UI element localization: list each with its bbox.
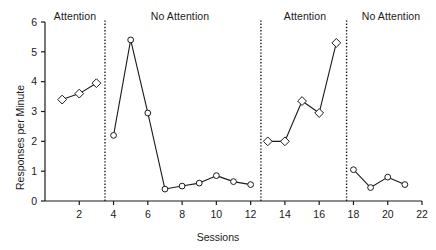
y-tick-label: 2 [31,135,37,147]
data-point-circle-marker [402,182,408,188]
y-axis-ticks: 0123456 [31,16,45,207]
y-tick-label: 0 [31,195,37,207]
data-point-circle-marker [111,132,117,138]
data-point-diamond-marker [58,95,67,104]
y-tick-label: 3 [31,105,37,117]
data-point-circle-marker [162,186,168,192]
x-tick-label: 16 [313,208,325,220]
chart-figure: 0123456246810121416182022 Attention No A… [0,0,436,250]
series-line [353,170,404,188]
series-line [114,40,251,189]
data-point-circle-marker [196,180,202,186]
data-point-circle-marker [128,37,134,43]
data-point-diamond-marker [298,97,307,106]
phase-label-no-attention-1: No Attention [130,10,230,22]
phase-dividers [105,20,347,201]
data-point-circle-marker [368,185,374,191]
phase-label-attention-1: Attention [40,10,110,22]
phase-label-no-attention-2: No Attention [348,10,434,22]
data-point-diamond-marker [92,79,101,88]
data-point-circle-marker [231,179,237,185]
x-tick-label: 2 [76,208,82,220]
data-point-circle-marker [385,174,391,180]
data-point-circle-marker [213,173,219,179]
x-tick-label: 12 [245,208,257,220]
y-tick-label: 4 [31,75,37,87]
data-point-diamond-marker [332,38,341,47]
data-point-circle-marker [248,182,254,188]
y-tick-label: 1 [31,165,37,177]
x-tick-label: 8 [179,208,185,220]
data-series [58,79,101,104]
phase-label-attention-2: Attention [270,10,340,22]
data-series [263,38,340,145]
x-tick-label: 4 [111,208,117,220]
x-tick-label: 22 [416,208,428,220]
x-tick-label: 20 [382,208,394,220]
x-axis-title: Sessions [0,231,436,243]
axes [45,22,422,201]
y-axis-title: Responses per Minute [14,85,26,190]
x-tick-label: 6 [145,208,151,220]
data-point-circle-marker [351,167,357,173]
data-point-diamond-marker [75,89,84,98]
data-series [351,167,408,191]
series-line [268,43,337,141]
y-tick-label: 5 [31,46,37,58]
x-tick-label: 18 [348,208,360,220]
x-tick-label: 14 [279,208,291,220]
data-series [111,37,254,192]
data-point-diamond-marker [281,137,290,146]
x-axis-ticks: 246810121416182022 [76,201,428,220]
x-tick-label: 10 [211,208,223,220]
data-point-circle-marker [145,110,151,116]
data-point-diamond-marker [315,109,324,118]
data-point-circle-marker [179,183,185,189]
y-tick-label: 6 [31,16,37,28]
line-chart: 0123456246810121416182022 [0,0,436,250]
data-point-diamond-marker [263,137,272,146]
